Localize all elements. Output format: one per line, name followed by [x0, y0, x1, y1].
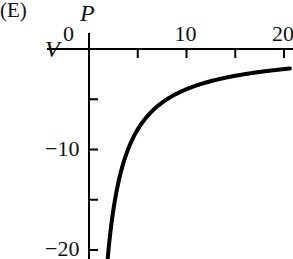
y-tick-label: −20 — [45, 238, 79, 259]
x-tick-label: 20 — [272, 23, 293, 45]
chart-panel-e: (E) P V 01020−10−20 — [0, 0, 293, 259]
x-ticks — [138, 49, 284, 58]
x-axis-title: P — [80, 1, 95, 25]
x-tick-label: 0 — [63, 23, 74, 45]
data-curve — [108, 69, 290, 259]
y-axis-title: V — [45, 37, 60, 61]
panel-label: (E) — [0, 0, 27, 21]
y-tick-label: −10 — [45, 138, 79, 160]
y-ticks — [89, 99, 98, 250]
x-tick-label: 10 — [175, 23, 197, 45]
plot-area — [0, 0, 293, 259]
